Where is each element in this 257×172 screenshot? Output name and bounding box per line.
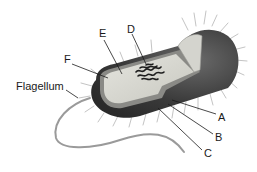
label-b: B bbox=[215, 132, 222, 143]
label-flagellum: Flagellum bbox=[16, 81, 64, 92]
label-f: F bbox=[64, 54, 71, 65]
label-e: E bbox=[99, 28, 106, 39]
label-d: D bbox=[127, 24, 135, 35]
label-c: C bbox=[204, 148, 212, 159]
label-a: A bbox=[218, 112, 225, 123]
bacterial-cell-diagram: A B C D E F Flagellum bbox=[0, 0, 257, 172]
